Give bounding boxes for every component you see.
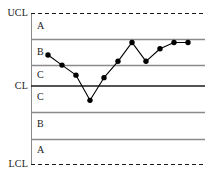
zone-label-c-upper: C — [37, 70, 44, 80]
zone-label-a-upper: A — [37, 21, 44, 31]
control-chart-plot — [0, 0, 205, 169]
data-point — [87, 98, 92, 103]
data-point — [171, 40, 176, 45]
data-point — [59, 62, 64, 67]
zone-label-b-upper: B — [37, 47, 44, 57]
data-point — [45, 52, 50, 57]
zone-label-a-lower: A — [37, 145, 44, 155]
data-point — [73, 72, 78, 77]
zone-label-b-lower: B — [37, 119, 44, 129]
control-chart: UCL CL LCL A B C C B A — [0, 0, 205, 169]
ucl-label: UCL — [0, 8, 28, 18]
series-line — [48, 42, 188, 100]
series-markers — [45, 40, 190, 103]
zone-label-c-lower: C — [37, 92, 44, 102]
data-point — [143, 59, 148, 64]
data-point — [129, 40, 134, 45]
cl-label: CL — [0, 81, 28, 91]
data-point — [185, 40, 190, 45]
data-point — [115, 59, 120, 64]
data-point — [101, 75, 106, 80]
data-point — [157, 46, 162, 51]
lcl-label: LCL — [0, 159, 28, 169]
